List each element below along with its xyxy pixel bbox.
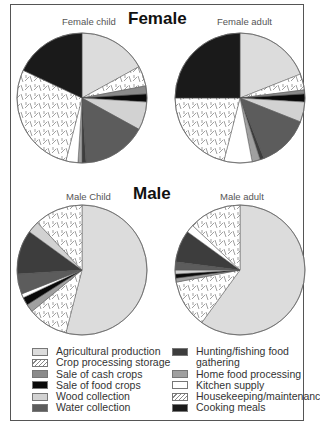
legend-swatch-icon (172, 381, 188, 389)
legend-item-crop-processing-storage: Crop processing storage (32, 357, 170, 368)
pie-slice-cooking-meals (175, 33, 240, 98)
male-child-label: Male Child (66, 191, 111, 202)
legend-swatch-icon (172, 393, 188, 401)
legend-swatch-icon (32, 359, 48, 367)
legend-item-water-collection: Water collection (32, 402, 170, 413)
legend-swatch-icon (32, 404, 48, 412)
legend-swatch-icon (32, 370, 48, 378)
legend-swatch-icon (172, 370, 188, 378)
legend-item-hunting-fishing-food: Hunting/fishing food (172, 346, 316, 357)
pie-female-adult (173, 29, 307, 167)
male-heading: Male (133, 184, 171, 204)
legend-label: Cooking meals (196, 402, 265, 413)
female-heading: Female (128, 9, 187, 29)
legend-column-right: Hunting/fishing foodgatheringHome food p… (172, 346, 316, 414)
legend-label: Crop processing storage (56, 357, 170, 368)
legend-swatch-icon (172, 348, 188, 356)
male-adult-label: Male adult (220, 191, 264, 202)
pie-male-adult (173, 202, 307, 338)
pie-female-child (15, 29, 149, 167)
pie-male-child (15, 202, 149, 338)
female-child-label: Female child (62, 16, 116, 27)
legend-label: Home food processing (196, 369, 301, 380)
female-adult-label: Female adult (217, 16, 272, 27)
legend-label: Water collection (56, 402, 130, 413)
legend-label-continuation: gathering (172, 357, 316, 368)
legend-label: Sale of cash crops (56, 369, 142, 380)
legend-swatch-icon (32, 348, 48, 356)
legend-swatch-icon (32, 393, 48, 401)
legend-item-cooking-meals: Cooking meals (172, 402, 316, 413)
legend-swatch-icon (172, 404, 188, 412)
legend-swatch-icon (32, 381, 48, 389)
legend-column-left: Agricultural productionCrop processing s… (32, 346, 170, 414)
